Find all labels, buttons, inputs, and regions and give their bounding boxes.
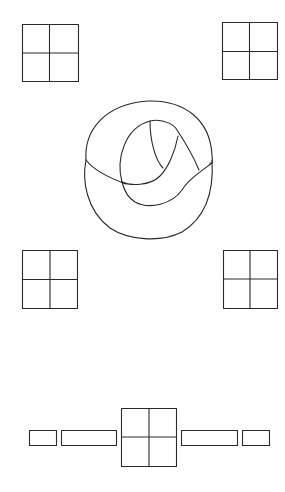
grid-square-middle-right (224, 251, 278, 309)
knot-loop (85, 101, 213, 239)
bar-left (62, 431, 117, 446)
grid-square-bottom-center (122, 409, 177, 467)
bar-right (182, 431, 238, 446)
grid-square-top-right (223, 23, 278, 80)
grid-square-top-left (23, 25, 79, 82)
line-drawing (0, 0, 285, 492)
bottom-bar-row (30, 409, 270, 467)
diagram-canvas (0, 0, 285, 492)
grid-square-middle-left (23, 251, 78, 309)
bar-far-right (243, 431, 270, 446)
bar-far-left (30, 431, 57, 446)
